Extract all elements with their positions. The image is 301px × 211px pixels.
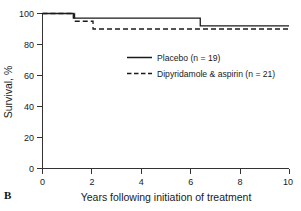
chart-legend: Placebo (n = 19) Dipyridamole & aspirin … bbox=[127, 53, 275, 79]
y-tick-group bbox=[37, 14, 43, 169]
x-tick-label-4: 4 bbox=[139, 177, 144, 187]
survival-chart-figure: 0 20 40 60 80 100 0 2 4 6 8 10 Years fol… bbox=[0, 0, 301, 211]
x-axis-title: Years following initiation of treatment bbox=[81, 191, 252, 203]
series-line-placebo bbox=[43, 14, 290, 26]
x-tick-group bbox=[43, 169, 290, 175]
x-tick-label-0: 0 bbox=[40, 177, 45, 187]
y-tick-label-0: 0 bbox=[29, 164, 34, 174]
x-tick-label-6: 6 bbox=[188, 177, 193, 187]
legend-label-placebo: Placebo (n = 19) bbox=[157, 53, 220, 63]
x-tick-label-10: 10 bbox=[283, 177, 293, 187]
survival-plot: 0 20 40 60 80 100 0 2 4 6 8 10 Years fol… bbox=[0, 0, 301, 211]
legend-label-dipyridamole-aspirin: Dipyridamole & aspirin (n = 21) bbox=[157, 69, 275, 79]
x-tick-label-2: 2 bbox=[89, 177, 94, 187]
series-line-dipyridamole-aspirin bbox=[43, 14, 290, 30]
y-tick-label-40: 40 bbox=[24, 102, 34, 112]
panel-label: B bbox=[4, 190, 11, 201]
y-tick-label-20: 20 bbox=[24, 133, 34, 143]
y-tick-label-60: 60 bbox=[24, 71, 34, 81]
y-tick-label-100: 100 bbox=[19, 9, 34, 19]
y-axis-title: Survival, % bbox=[2, 66, 14, 119]
y-tick-label-80: 80 bbox=[24, 40, 34, 50]
x-tick-label-8: 8 bbox=[238, 177, 243, 187]
y-tick-labels: 0 20 40 60 80 100 bbox=[19, 9, 34, 174]
x-tick-labels: 0 2 4 6 8 10 bbox=[40, 177, 293, 187]
